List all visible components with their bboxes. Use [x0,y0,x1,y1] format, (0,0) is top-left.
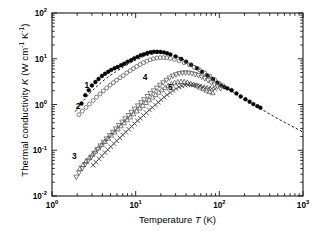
chart-canvas: 10010110210310210110010-110-2 12345 [0,0,315,238]
y-axis-title-symbol: K [19,78,30,84]
x-axis-title-pre: Temperature [139,214,195,225]
x-axis-title-post: (K) [201,214,216,225]
y-axis-title-pre: Thermal conductivity [19,85,30,177]
svg-text:10-2: 10-2 [33,190,47,201]
svg-text:102: 102 [35,7,47,18]
figure-thermal-conductivity-chart: 10010110210310210110010-110-2 12345 Ther… [0,0,315,238]
axis-ticks [52,13,303,196]
curve-label-2: 2 [76,101,81,111]
axis-tick-labels: 10010110210310210110010-110-2 [33,7,310,210]
svg-text:101: 101 [129,199,142,210]
series-markers [74,50,263,180]
y-axis-title-mid: K [19,33,30,42]
y-axis-title-sup1: -1 [18,42,25,48]
series-1 [80,50,263,110]
y-axis-title-post: (W cm [19,48,30,79]
svg-text:103: 103 [297,199,310,210]
y-axis-title-sup2: -1 [18,27,25,33]
y-axis-title: Thermal conductivity K (W cm-1 K-1) [18,10,30,190]
x-axis-title: Temperature T (K) [52,214,303,225]
svg-text:10-1: 10-1 [33,145,48,156]
svg-text:101: 101 [35,53,48,64]
curve-label-1: 1 [84,80,89,90]
curve-label-4: 4 [143,72,148,82]
svg-text:100: 100 [35,99,47,110]
plot-frame [52,13,303,196]
svg-text:100: 100 [46,199,58,210]
curve-label-5: 5 [168,82,173,92]
svg-text:102: 102 [213,199,225,210]
y-axis-title-end: ) [19,23,30,26]
curve-label-3: 3 [72,151,77,161]
